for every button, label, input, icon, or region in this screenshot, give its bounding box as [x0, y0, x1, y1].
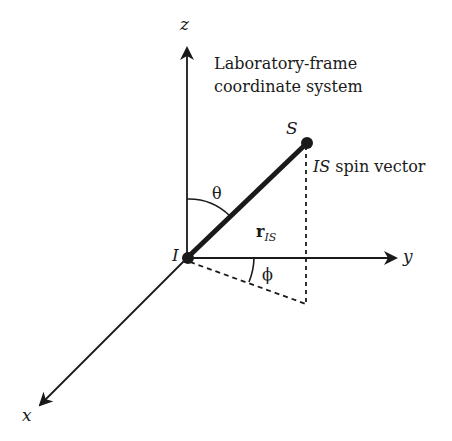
frame-title-line-1: Laboratory-frame	[214, 52, 363, 75]
point-i	[182, 252, 194, 264]
spin-label-italic: IS	[313, 157, 330, 176]
x-axis	[40, 258, 187, 405]
vector-r-sub: IS	[264, 231, 276, 244]
y-axis-label: y	[403, 246, 413, 266]
x-axis-label: x	[22, 405, 32, 425]
point-s-label: S	[286, 118, 298, 138]
spin-label-rest: spin vector	[330, 157, 425, 176]
projection-line	[190, 262, 306, 304]
phi-label: ϕ	[262, 265, 273, 284]
phi-arc	[249, 258, 254, 282]
frame-title: Laboratory-frame coordinate system	[214, 52, 363, 98]
z-axis-label: z	[180, 14, 189, 34]
point-s	[301, 137, 313, 149]
frame-title-line-2: coordinate system	[214, 75, 363, 98]
vector-r-label: rIS	[256, 222, 276, 244]
theta-arc	[187, 199, 230, 216]
theta-label: θ	[212, 184, 222, 203]
point-i-label: I	[172, 245, 179, 265]
spin-vector-label: IS spin vector	[313, 157, 426, 176]
